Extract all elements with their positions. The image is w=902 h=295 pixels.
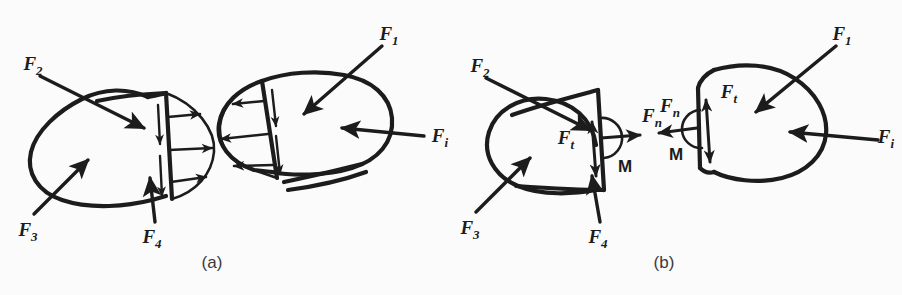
- caption-b: (b): [654, 253, 675, 272]
- figure-container: F2 F3 F4: [0, 0, 902, 295]
- b-right-label-M: M: [669, 145, 683, 164]
- figure-svg: F2 F3 F4: [0, 0, 902, 295]
- b-left-label-M: M: [618, 157, 632, 176]
- caption-a: (a): [202, 253, 223, 272]
- figure-background: [0, 0, 902, 295]
